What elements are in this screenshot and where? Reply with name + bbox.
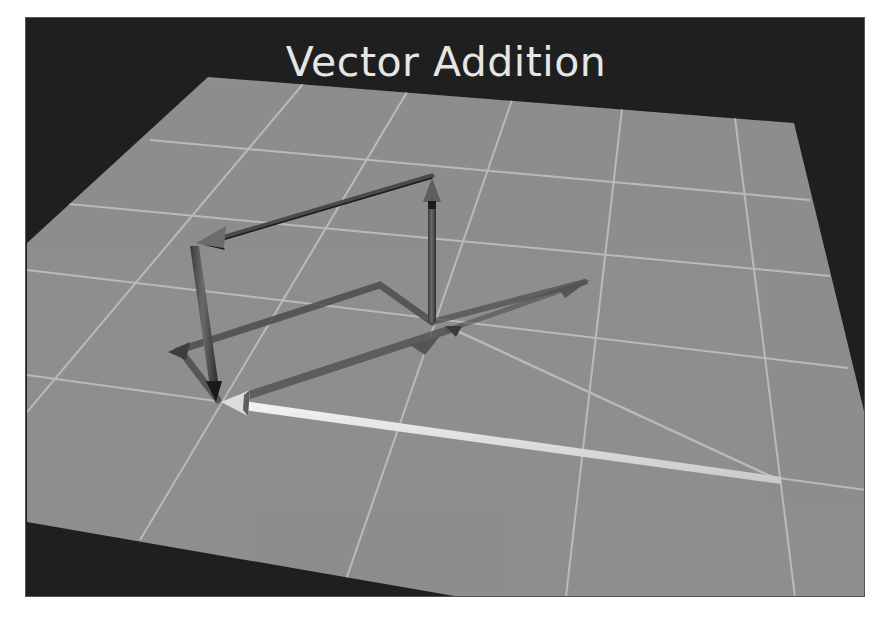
diagram-title: Vector Addition (0, 38, 892, 86)
vector-scene (0, 0, 892, 619)
